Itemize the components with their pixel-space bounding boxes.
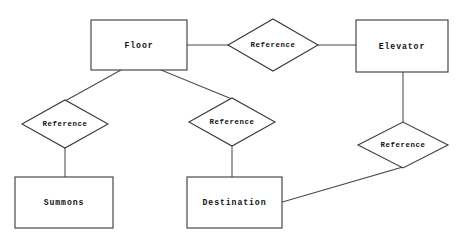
- entity-elevator[interactable]: Elevator: [356, 20, 448, 72]
- edge-floor-to-reference-summons: [65, 70, 121, 101]
- relationship-floor-summons-label: Reference: [43, 120, 88, 128]
- relationship-floor-summons[interactable]: Reference: [22, 100, 108, 148]
- er-diagram-canvas: Floor Elevator Summons Destination Refer…: [0, 0, 461, 238]
- relationship-floor-elevator[interactable]: Reference: [228, 19, 318, 71]
- relationship-floor-elevator-label: Reference: [251, 41, 296, 49]
- entity-floor-label: Floor: [124, 41, 153, 50]
- entity-summons-label: Summons: [44, 198, 85, 207]
- relationship-elevator-destination[interactable]: Reference: [358, 122, 448, 168]
- entity-elevator-label: Elevator: [379, 42, 426, 51]
- edge-reference-elevator-destination-to-destination: [282, 167, 403, 202]
- edge-floor-to-reference-destination: [161, 70, 232, 99]
- entity-summons[interactable]: Summons: [15, 177, 113, 228]
- entity-floor[interactable]: Floor: [91, 20, 187, 70]
- entity-destination[interactable]: Destination: [187, 177, 282, 228]
- relationship-floor-destination-label: Reference: [210, 118, 255, 126]
- entity-destination-label: Destination: [203, 198, 267, 207]
- relationship-elevator-destination-label: Reference: [381, 141, 426, 149]
- relationship-floor-destination[interactable]: Reference: [189, 98, 275, 146]
- er-diagram-svg: Floor Elevator Summons Destination Refer…: [0, 0, 461, 238]
